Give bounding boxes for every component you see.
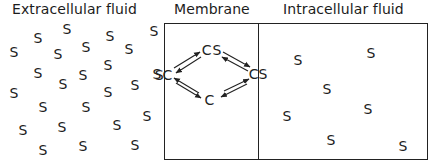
species-sc-outer: SC (155, 68, 172, 82)
arrow-sc-to-c (176, 83, 201, 98)
arrow-c-to-sc (174, 78, 199, 93)
species-c-free: C (205, 93, 216, 107)
reaction-arrows (0, 0, 433, 167)
species-cs-top: CS (202, 43, 223, 57)
carrier-transport-diagram: Extracellular fluid Membrane Intracellul… (0, 0, 433, 167)
species-cs-inner: CS (249, 67, 268, 81)
